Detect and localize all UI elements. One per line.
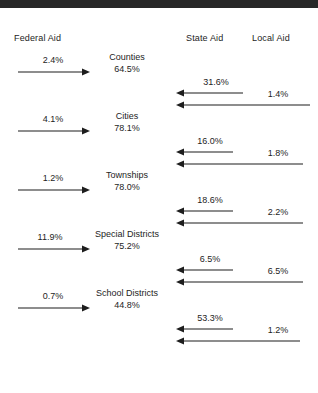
- local-arrow-row-1: [176, 161, 303, 168]
- entity-name-row-2: Townships: [62, 170, 192, 182]
- entity-row-4: School Districts 44.8%: [62, 288, 192, 311]
- entity-value-row-1: 78.1%: [62, 123, 192, 135]
- state-arrow-row-0: [176, 90, 243, 97]
- state-aid-value-row-1: 16.0%: [180, 136, 240, 146]
- entity-name-row-1: Cities: [62, 111, 192, 123]
- local-arrow-row-0: [176, 102, 310, 109]
- entity-value-row-0: 64.5%: [62, 64, 192, 76]
- entity-name-row-4: School Districts: [62, 288, 192, 300]
- entity-row-0: Counties 64.5%: [62, 52, 192, 75]
- entity-name-row-3: Special Districts: [62, 229, 192, 241]
- local-arrow-row-3: [176, 279, 303, 286]
- state-arrow-row-2: [176, 208, 233, 215]
- entity-row-2: Townships 78.0%: [62, 170, 192, 193]
- entity-name-row-0: Counties: [62, 52, 192, 64]
- entity-row-1: Cities 78.1%: [62, 111, 192, 134]
- state-aid-value-row-2: 18.6%: [180, 195, 240, 205]
- state-arrow-row-3: [176, 267, 233, 274]
- local-aid-value-row-2: 2.2%: [248, 207, 308, 217]
- state-arrow-row-1: [176, 149, 233, 156]
- entity-value-row-4: 44.8%: [62, 300, 192, 312]
- local-arrow-row-4: [176, 338, 300, 345]
- local-aid-value-row-0: 1.4%: [248, 89, 308, 99]
- local-aid-value-row-4: 1.2%: [248, 325, 308, 335]
- entity-value-row-2: 78.0%: [62, 182, 192, 194]
- local-aid-value-row-1: 1.8%: [248, 148, 308, 158]
- local-arrow-row-2: [176, 220, 303, 227]
- state-aid-value-row-3: 6.5%: [180, 254, 240, 264]
- entity-row-3: Special Districts 75.2%: [62, 229, 192, 252]
- flow-diagram: Federal Aid State Aid Local Aid: [0, 0, 318, 393]
- state-aid-value-row-0: 31.6%: [186, 77, 246, 87]
- state-aid-value-row-4: 53.3%: [180, 313, 240, 323]
- local-aid-value-row-3: 6.5%: [248, 266, 308, 276]
- state-arrow-row-4: [176, 326, 233, 333]
- entity-value-row-3: 75.2%: [62, 241, 192, 253]
